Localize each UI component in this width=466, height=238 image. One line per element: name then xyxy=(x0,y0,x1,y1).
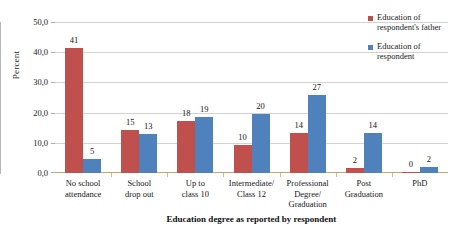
y-tick-label: 40,0 xyxy=(14,48,48,57)
category-label: PostGraduation xyxy=(332,178,396,199)
category-label-line: class 10 xyxy=(163,189,227,200)
bar-father xyxy=(234,145,252,173)
category-tickmark xyxy=(280,173,281,177)
category-label-line: Degree/ xyxy=(276,189,340,200)
legend-label: respondent xyxy=(377,51,464,61)
bar-respondent xyxy=(364,133,382,173)
bar-respondent xyxy=(83,159,101,173)
category-label-line: Graduation xyxy=(332,189,396,200)
y-tick-label: 50,0 xyxy=(14,18,48,27)
bar-father xyxy=(177,121,195,173)
y-tick-label: 20,0 xyxy=(14,109,48,118)
category-label-line: Graduation xyxy=(276,199,340,210)
legend-swatch-icon xyxy=(368,45,373,50)
category-label-line: drop out xyxy=(107,189,171,200)
category-tickmark xyxy=(167,173,168,177)
y-tickmark xyxy=(51,82,55,83)
bar-value-label: 20 xyxy=(248,102,274,111)
category-tickmark xyxy=(336,173,337,177)
bar-value-label: 5 xyxy=(79,147,105,156)
category-label-line: School xyxy=(107,178,171,189)
category-label-line: Post xyxy=(332,178,396,189)
gridline xyxy=(55,82,448,83)
bar-respondent xyxy=(420,167,438,173)
category-label-line: Professional xyxy=(276,178,340,189)
y-axis-line xyxy=(0,22,1,174)
bar-father xyxy=(290,133,308,173)
bar-value-label: 2 xyxy=(416,155,442,164)
category-label-line: PhD xyxy=(388,178,452,189)
category-label-line: No school xyxy=(51,178,115,189)
bar-chart: Percent 50,0 40,0 30,0 20,0 10,0 0,0 415… xyxy=(0,0,466,238)
bar-respondent xyxy=(195,117,213,173)
bar-value-label: 41 xyxy=(61,36,87,45)
y-tick-label: 10,0 xyxy=(14,139,48,148)
category-label-line: Intermediate/ xyxy=(219,178,283,189)
y-axis-tick-labels: 50,0 40,0 30,0 20,0 10,0 0,0 xyxy=(14,0,48,238)
legend-label: Education of xyxy=(377,41,464,51)
bar-value-label: 27 xyxy=(304,83,330,92)
bar-value-label: 19 xyxy=(191,105,217,114)
legend-item-respondent[interactable]: Education of respondent xyxy=(368,41,464,61)
bar-respondent xyxy=(139,134,157,173)
category-label: No schoolattendance xyxy=(51,178,115,199)
legend-label: respondent's father xyxy=(377,22,464,32)
y-tickmark xyxy=(51,172,55,173)
legend: Education of respondent's father Educati… xyxy=(368,12,464,70)
y-tick-label: 0,0 xyxy=(14,169,48,178)
bar-respondent xyxy=(308,95,326,173)
y-tickmark xyxy=(51,22,55,23)
y-tickmark xyxy=(51,52,55,53)
category-label: Intermediate/Class 12 xyxy=(219,178,283,199)
y-tickmark xyxy=(51,143,55,144)
bar-father xyxy=(402,172,420,173)
bar-father xyxy=(346,168,364,173)
category-label: ProfessionalDegree/Graduation xyxy=(276,178,340,210)
legend-item-father[interactable]: Education of respondent's father xyxy=(368,12,464,32)
y-tickmark xyxy=(51,113,55,114)
category-tickmark xyxy=(111,173,112,177)
bar-value-label: 14 xyxy=(360,121,386,130)
category-label-line: attendance xyxy=(51,189,115,200)
category-tickmark xyxy=(223,173,224,177)
x-axis-title: Education degree as reported by responde… xyxy=(55,214,448,224)
y-tick-label: 30,0 xyxy=(14,78,48,87)
category-label-line: Class 12 xyxy=(219,189,283,200)
category-label: Up toclass 10 xyxy=(163,178,227,199)
bar-value-label: 13 xyxy=(135,122,161,131)
category-label-line: Up to xyxy=(163,178,227,189)
legend-swatch-icon xyxy=(368,16,373,21)
bar-father xyxy=(121,130,139,173)
category-label: PhD xyxy=(388,178,452,189)
legend-label: Education of xyxy=(377,12,464,22)
category-label: Schooldrop out xyxy=(107,178,171,199)
category-tickmark xyxy=(392,173,393,177)
bar-respondent xyxy=(252,114,270,173)
